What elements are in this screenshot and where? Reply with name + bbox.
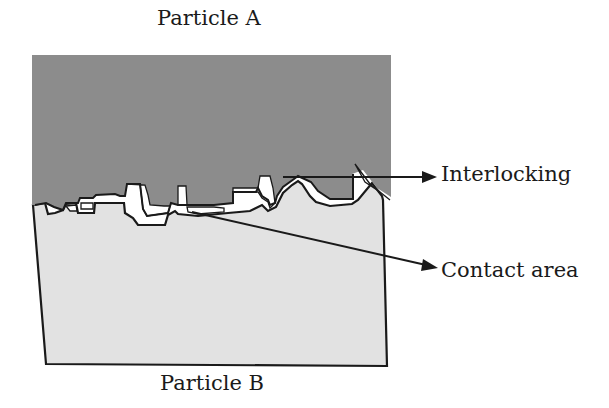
particle-b-label: Particle B xyxy=(160,371,264,395)
interlocking-arrowhead-icon xyxy=(422,171,437,183)
contact-area-arrowhead-icon xyxy=(421,259,438,271)
particle-a-shape xyxy=(32,55,391,216)
contact-area-label: Contact area xyxy=(441,258,579,282)
interlocking-label: Interlocking xyxy=(441,162,571,186)
particle-contact-diagram xyxy=(0,0,609,408)
